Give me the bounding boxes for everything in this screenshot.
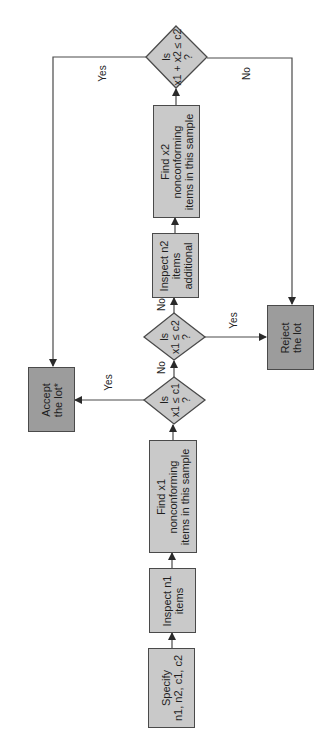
decision-2-line-3: ? bbox=[181, 320, 192, 354]
decision-1-text: Is x1 ≤ c1 ? bbox=[159, 383, 192, 417]
edge-label-d1-no: No bbox=[156, 361, 167, 374]
arrow-decision-3-to-accept bbox=[53, 57, 146, 366]
node-reject: Reject the lot bbox=[267, 305, 314, 370]
node-inspect-n1-line-2: items bbox=[173, 575, 185, 626]
node-specify-line-2: n1, n2, c1, c2 bbox=[172, 655, 184, 721]
node-reject-line-2: the lot bbox=[291, 322, 303, 353]
node-inspect-n2: Inspect n2 items additional bbox=[152, 233, 199, 298]
node-find-x1-line-1: Find x1 bbox=[155, 448, 167, 545]
node-accept-line-2: the lot* bbox=[52, 382, 64, 416]
decision-2-text: Is x1 ≤ c2 ? bbox=[159, 320, 192, 354]
node-find-x2-line-3: items in this sample bbox=[183, 113, 195, 210]
edge-label-d3-yes: Yes bbox=[97, 65, 108, 81]
decision-1-line-3: ? bbox=[181, 383, 192, 417]
node-specify-line-1: Specify bbox=[160, 655, 172, 721]
edge-label-d3-no: No bbox=[241, 67, 252, 80]
edge-label-d1-yes: Yes bbox=[103, 374, 114, 390]
edge-label-d2-yes: Yes bbox=[228, 312, 239, 328]
node-specify: Specify n1, n2, c1, c2 bbox=[148, 648, 195, 728]
node-find-x2-line-1: Find x2 bbox=[159, 113, 171, 210]
node-accept: Accept the lot* bbox=[28, 367, 75, 432]
node-find-x1-line-3: items in this sample bbox=[179, 448, 191, 545]
arrow-decision-3-to-reject bbox=[207, 58, 292, 304]
node-find-x2: Find x2 nonconforming items in this samp… bbox=[153, 105, 200, 218]
node-inspect-n1-line-1: Inspect n1 bbox=[161, 575, 173, 626]
node-reject-line-1: Reject bbox=[279, 322, 291, 353]
node-inspect-n2-line-2: items bbox=[170, 240, 182, 291]
edge-label-d2-no: No bbox=[156, 298, 167, 311]
node-inspect-n2-line-1: Inspect n2 bbox=[158, 240, 170, 291]
node-accept-line-1: Accept bbox=[40, 382, 52, 416]
node-find-x1: Find x1 nonconforming items in this samp… bbox=[149, 440, 197, 553]
node-find-x1-line-2: nonconforming bbox=[167, 448, 179, 545]
decision-3-text: Is x1 + x2 ≤ c2 ? bbox=[161, 29, 194, 86]
node-inspect-n1: Inspect n1 items bbox=[149, 568, 196, 633]
node-find-x2-line-2: nonconforming bbox=[171, 113, 183, 210]
node-inspect-n2-line-3: additional bbox=[182, 240, 194, 291]
decision-3-line-3: ? bbox=[183, 29, 194, 86]
